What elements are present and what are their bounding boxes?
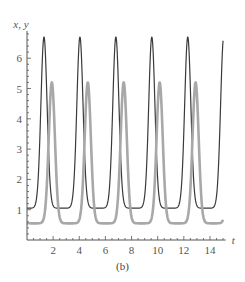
x-tick-label: 6 [103, 244, 109, 256]
x-axis-label: t [232, 234, 236, 246]
x-tick-label: 10 [152, 244, 164, 256]
y-tick-label: 5 [17, 83, 23, 95]
y-tick-label: 1 [17, 204, 23, 216]
y-tick-label: 2 [17, 173, 23, 185]
y-axis-label: x, y [12, 18, 28, 30]
x-tick-label: 14 [204, 244, 216, 256]
y-tick-label: 3 [17, 143, 23, 155]
y-tick-label: 4 [17, 113, 23, 125]
chart-canvas: 2468101214123456tx, y [0, 0, 245, 282]
x-tick-label: 12 [178, 244, 189, 256]
series-y-line [27, 82, 223, 223]
y-tick-label: 6 [17, 52, 23, 64]
x-tick-label: 4 [77, 244, 83, 256]
figure-caption: (b) [0, 260, 245, 272]
x-tick-label: 8 [129, 244, 135, 256]
series-layer [27, 37, 223, 223]
x-tick-label: 2 [50, 244, 56, 256]
